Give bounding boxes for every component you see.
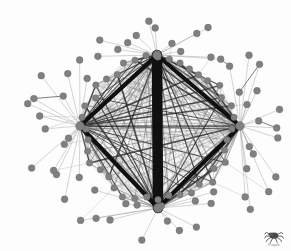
pendant-node: [91, 187, 98, 194]
pendant-node: [38, 72, 45, 79]
pendant-node: [84, 75, 91, 82]
pendant-node: [169, 40, 176, 47]
pendant-node: [107, 217, 114, 224]
pendant-node: [247, 206, 254, 213]
ring-node: [186, 66, 192, 72]
ring-node: [188, 190, 194, 196]
hub-node: [153, 51, 162, 60]
ring-node: [132, 195, 138, 201]
hub-hub-edge: [157, 55, 158, 208]
pendant-node: [28, 165, 35, 172]
canvas-background: [0, 0, 291, 251]
ring-node: [85, 137, 91, 143]
pendant-node: [42, 126, 49, 133]
pendant-node: [76, 174, 83, 181]
pendant-node: [134, 202, 141, 209]
pendant-node: [255, 118, 262, 125]
ring-node: [97, 166, 103, 172]
network-graph-figure: Pajek: [0, 0, 291, 251]
ring-node: [177, 60, 183, 66]
ring-node: [166, 56, 172, 62]
network-canvas: [0, 0, 291, 251]
ring-node: [211, 165, 217, 171]
pendant-node: [274, 135, 281, 142]
pendant-node: [77, 217, 84, 224]
ring-node: [229, 126, 235, 132]
ring-node: [217, 82, 223, 88]
pendant-node: [164, 218, 171, 225]
pendant-node: [208, 54, 215, 61]
pendant-node: [217, 56, 224, 63]
pendant-node: [176, 227, 183, 234]
pendant-node: [145, 18, 152, 25]
hub-node: [236, 122, 245, 131]
ring-node: [166, 192, 172, 198]
ring-node: [119, 194, 125, 200]
ring-node: [204, 77, 210, 83]
pendant-node: [114, 46, 121, 53]
ring-node: [114, 71, 120, 77]
ring-node: [86, 160, 92, 166]
pendant-node: [60, 93, 67, 100]
ring-node: [79, 114, 85, 120]
pendant-node: [61, 141, 68, 148]
pendant-node: [256, 61, 263, 68]
spider-icon: [264, 229, 284, 243]
ring-node: [221, 147, 227, 153]
pendant-node: [31, 95, 38, 102]
ring-node: [84, 148, 90, 154]
ring-node: [144, 194, 150, 200]
ring-node: [177, 192, 183, 198]
pendant-node: [246, 52, 253, 59]
pendant-node: [254, 87, 261, 94]
ring-node: [210, 179, 216, 185]
pendant-node: [276, 106, 283, 113]
ring-node: [82, 103, 88, 109]
pendant-node: [124, 39, 131, 46]
pendant-node: [243, 165, 250, 172]
pendant-node: [193, 30, 200, 37]
pendant-node: [236, 89, 243, 96]
pendant-node: [50, 167, 57, 174]
watermark-label: Pajek: [268, 243, 279, 247]
ring-node: [218, 94, 224, 100]
pendant-node: [122, 200, 129, 207]
pendant-node: [76, 57, 83, 64]
pendant-node: [208, 200, 215, 207]
pendant-node: [273, 125, 280, 132]
pendant-node: [96, 37, 103, 44]
ring-node: [224, 136, 230, 142]
pendant-node: [36, 113, 43, 120]
ring-node: [196, 181, 202, 187]
pendant-node: [210, 188, 217, 195]
pendant-node: [61, 196, 68, 203]
ring-node: [155, 197, 161, 203]
ring-node: [92, 95, 98, 101]
pendant-node: [133, 32, 140, 39]
pendant-node: [244, 101, 251, 108]
ring-node: [111, 185, 117, 191]
ring-node: [132, 57, 138, 63]
pendant-node: [192, 198, 199, 205]
pendant-node: [94, 53, 101, 60]
pendant-node: [152, 25, 159, 32]
ring-node: [120, 60, 126, 66]
pendant-node: [64, 70, 71, 77]
ring-node: [231, 114, 237, 120]
pendant-node: [226, 63, 233, 70]
ring-node: [195, 72, 201, 78]
pendant-node: [138, 237, 145, 244]
pendant-node: [246, 143, 253, 150]
ring-node: [228, 103, 234, 109]
pajek-watermark: Pajek: [261, 225, 287, 247]
pendant-node: [272, 173, 279, 180]
pendant-node: [24, 100, 31, 107]
ring-node: [222, 159, 228, 165]
pendant-node: [242, 194, 249, 201]
ring-node: [93, 82, 99, 88]
hub-node: [76, 122, 85, 131]
pendant-node: [265, 188, 272, 195]
pendant-node: [250, 151, 257, 158]
pendant-node: [177, 48, 184, 55]
ring-node: [103, 76, 109, 82]
